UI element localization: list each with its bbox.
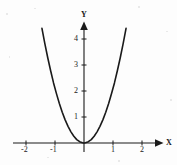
y-tick-label: 2: [74, 87, 78, 95]
x-axis-arrowhead: [155, 139, 164, 147]
y-tick-label: 3: [74, 61, 78, 69]
y-axis-label: Y: [81, 11, 87, 19]
x-tick-label: 1: [111, 146, 115, 154]
y-axis-arrowhead: [80, 22, 88, 31]
x-axis-label: X: [166, 139, 172, 147]
x-tick-label: 2: [140, 146, 144, 154]
plot-canvas: [0, 0, 177, 165]
graph-figure: -2 -1 1 2 1 2 3 4 X Y: [0, 0, 177, 165]
x-tick-label: -1: [50, 146, 57, 154]
y-tick-label: 4: [74, 35, 78, 43]
y-tick-label: 1: [74, 113, 78, 121]
x-tick-label: -2: [21, 146, 28, 154]
